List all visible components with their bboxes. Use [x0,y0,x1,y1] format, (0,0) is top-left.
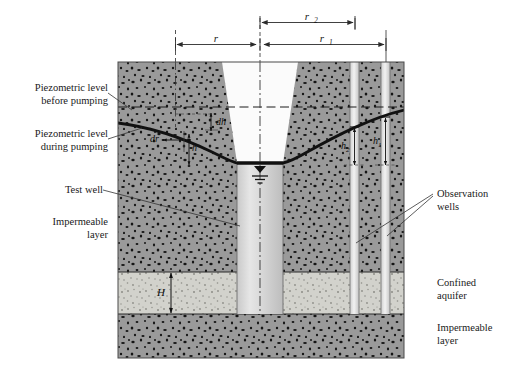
observation-well-2-shaft [350,62,359,314]
dim-label-r2-sub: 2 [314,16,318,25]
label-test-well-line1: Test well [65,184,103,195]
label-dr: dr [150,133,159,144]
label-impermeable-upper-line2: layer [87,229,108,240]
label-piezometric-before-line1: Piezometric level [35,82,108,93]
dim-label-r2-base: r [305,10,310,22]
label-h1-sub: 1 [378,141,382,149]
dim-label-r1-sub: 1 [329,38,333,47]
label-impermeable-layer-lower: Impermeable layer [437,322,492,347]
label-confined-aquifer-line1: Confined [437,277,476,288]
label-h2: h2 [341,140,350,154]
dimension-lines: r 2 r r 1 [176,10,387,62]
figure-canvas: r 2 r r 1 [0,0,517,371]
label-impermeable-lower-line2: layer [437,335,458,346]
label-test-well: Test well [4,184,103,197]
label-piezometric-during-line2: during pumping [41,141,108,152]
label-dh: dh [216,116,226,127]
label-confined-aquifer: Confined aquifer [437,277,476,302]
observation-well-1-shaft [381,62,390,314]
dim-label-r1-base: r [320,32,325,44]
label-impermeable-upper-line1: Impermeable [53,216,108,227]
label-observation-wells-line2: wells [437,201,459,212]
impermeable-layer-lower [118,314,404,358]
dim-label-r: r [214,32,219,44]
label-impermeable-lower-line1: Impermeable [437,322,492,333]
label-h: h [192,142,197,153]
label-observation-wells: Observation wells [437,188,488,213]
label-confined-aquifer-line2: aquifer [437,290,467,301]
label-piezometric-during-pumping: Piezometric level during pumping [4,128,108,153]
label-h1: h1 [373,135,382,149]
label-piezometric-during-line1: Piezometric level [35,128,108,139]
label-impermeable-layer-upper: Impermeable layer [4,216,108,241]
label-h2-sub: 2 [346,146,350,154]
label-piezometric-before-pumping: Piezometric level before pumping [4,82,108,107]
label-H: H [157,286,165,298]
cross-section-body [118,62,404,358]
label-piezometric-before-line2: before pumping [41,95,108,106]
label-observation-wells-line1: Observation [437,188,488,199]
